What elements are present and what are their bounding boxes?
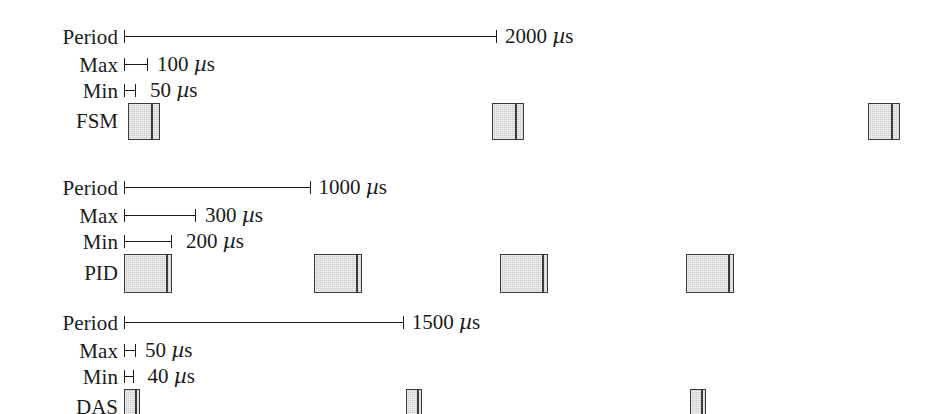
min-value-pid-mu-glyph: µ <box>223 229 236 253</box>
task-label-pid: PID <box>84 263 118 284</box>
execution-block-das-2 <box>406 389 422 414</box>
period-bar-fsm <box>124 30 497 43</box>
execution-block-divider <box>135 390 137 414</box>
min-value-pid: 200 µs <box>186 231 244 252</box>
min-bar-pid-end-tick <box>171 235 172 248</box>
period-value-das-mu-glyph: µ <box>459 310 472 334</box>
period-bar-pid-end-tick <box>310 181 311 194</box>
max-bar-fsm-start-tick <box>124 58 125 71</box>
task-row-das: Period1500 µsMax50 µsMin40 µsDAS <box>0 286 941 414</box>
max-bar-pid <box>124 209 196 222</box>
period-label-pid: Period <box>63 178 118 199</box>
execution-block-das-1 <box>124 389 140 414</box>
max-value-das: 50 µs <box>145 340 192 361</box>
period-bar-das-start-tick <box>124 316 125 329</box>
min-label-fsm: Min <box>83 81 118 102</box>
min-bar-fsm-start-tick <box>124 84 125 97</box>
period-bar-pid <box>124 181 311 194</box>
execution-block-fsm-1 <box>128 103 160 140</box>
max-bar-das <box>124 344 136 357</box>
period-bar-das-end-tick <box>403 316 404 329</box>
min-bar-das-start-tick <box>124 370 125 383</box>
min-value-fsm-mu-glyph: µ <box>176 78 189 102</box>
period-label-fsm: Period <box>63 27 118 48</box>
min-bar-das-end-tick <box>133 370 134 383</box>
max-value-pid: 300 µs <box>205 205 263 226</box>
max-label-fsm: Max <box>79 55 118 76</box>
period-value-das: 1500 µs <box>412 312 480 333</box>
min-value-fsm: 50 µs <box>150 80 197 101</box>
min-bar-fsm-end-tick <box>135 84 136 97</box>
min-label-das: Min <box>83 367 118 388</box>
execution-block-divider <box>515 104 517 139</box>
max-value-fsm: 100 µs <box>157 54 215 75</box>
max-bar-das-end-tick <box>135 344 136 357</box>
execution-block-das-3 <box>690 389 706 414</box>
min-bar-pid-line <box>124 241 172 242</box>
min-bar-pid-start-tick <box>124 235 125 248</box>
period-bar-das-line <box>124 322 404 323</box>
period-bar-fsm-end-tick <box>496 30 497 43</box>
period-value-fsm-mu-glyph: µ <box>552 24 565 48</box>
max-bar-das-start-tick <box>124 344 125 357</box>
period-bar-fsm-start-tick <box>124 30 125 43</box>
execution-block-fsm-2 <box>492 103 524 140</box>
task-label-das: DAS <box>76 397 118 414</box>
min-bar-fsm <box>124 84 136 97</box>
task-row-pid: Period1000 µsMax300 µsMin200 µsPID <box>0 151 941 299</box>
max-label-das: Max <box>79 341 118 362</box>
min-value-das-mu-glyph: µ <box>174 364 187 388</box>
execution-block-fsm-3 <box>868 103 900 140</box>
max-bar-pid-start-tick <box>124 209 125 222</box>
period-bar-fsm-line <box>124 36 497 37</box>
task-row-fsm: Period2000 µsMax100 µsMin50 µsFSM <box>0 0 941 146</box>
max-bar-pid-line <box>124 215 196 216</box>
timing-diagram: Period2000 µsMax100 µsMin50 µsFSMPeriod1… <box>0 0 941 414</box>
max-value-pid-mu-glyph: µ <box>242 203 255 227</box>
max-value-das-mu-glyph: µ <box>171 338 184 362</box>
min-bar-pid <box>124 235 172 248</box>
max-bar-fsm <box>124 58 148 71</box>
period-value-fsm: 2000 µs <box>505 26 573 47</box>
period-value-pid: 1000 µs <box>319 177 387 198</box>
max-bar-fsm-end-tick <box>147 58 148 71</box>
period-value-pid-mu-glyph: µ <box>366 175 379 199</box>
execution-block-divider <box>891 104 893 139</box>
min-label-pid: Min <box>83 232 118 253</box>
execution-block-divider <box>417 390 419 414</box>
period-bar-das <box>124 316 404 329</box>
period-label-das: Period <box>63 313 118 334</box>
max-bar-fsm-line <box>124 64 148 65</box>
execution-block-divider <box>701 390 703 414</box>
max-bar-pid-end-tick <box>195 209 196 222</box>
max-label-pid: Max <box>79 206 118 227</box>
execution-block-divider <box>151 104 153 139</box>
period-bar-pid-start-tick <box>124 181 125 194</box>
max-value-fsm-mu-glyph: µ <box>194 52 207 76</box>
min-value-das: 40 µs <box>148 366 195 387</box>
min-bar-das <box>124 370 134 383</box>
task-label-fsm: FSM <box>76 111 118 132</box>
period-bar-pid-line <box>124 187 311 188</box>
